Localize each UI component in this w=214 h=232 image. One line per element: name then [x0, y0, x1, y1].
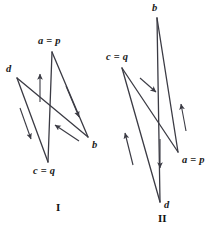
figure-two-vertex-label-c_q: c = q [106, 52, 128, 63]
figure-two-caption: II [158, 213, 167, 224]
figure-two-arrow-down-along-c-to-a [140, 78, 156, 92]
figure-one-caption: I [56, 202, 60, 213]
figure-two-edge-d-to-c [122, 68, 160, 202]
figure-two-edge-c-to-a [122, 68, 178, 152]
figure-one-arrow-up-along-b-to-d [55, 125, 79, 141]
figure-two-vertex-label-b: b [152, 3, 157, 14]
figure-two-vertex-label-d: d [164, 200, 169, 211]
figure-two-arrow-up-along-d-to-c [125, 133, 133, 165]
figure-one-vertex-label-d: d [6, 64, 11, 75]
figure-one-vertex-label-b: b [92, 140, 97, 151]
figure-one-arrow-down-along-a-to-b [66, 86, 79, 117]
figure-two-edge-b-to-d [157, 18, 160, 202]
figure-two-edge-a-to-b [157, 18, 178, 152]
figure-one-edges [17, 52, 88, 162]
figure-two-vertex-label-a_p: a = p [182, 155, 205, 166]
figure-panel: a = pdbc = qbc = qa = pd I II [0, 0, 214, 232]
figure-two-arrow-up-along-a-to-b [181, 104, 186, 131]
figure-two-edges [122, 18, 178, 202]
figure-one-vertex-label-c_q: c = q [33, 166, 55, 177]
figure-two-arrows [125, 78, 186, 168]
figure-one-vertex-label-a_p: a = p [38, 36, 61, 47]
vector-diagram-svg [0, 0, 214, 232]
